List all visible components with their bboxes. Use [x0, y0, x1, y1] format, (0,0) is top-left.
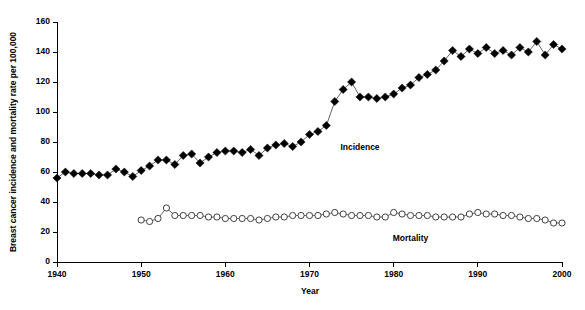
data-point — [221, 147, 229, 155]
x-tick-label: 1960 — [216, 269, 235, 279]
series-annotations: IncidenceMortality — [340, 142, 428, 244]
data-point — [289, 142, 297, 150]
data-point — [230, 147, 238, 155]
x-axis: 1940195019601970198019902000 — [48, 262, 572, 279]
y-tick-label: 80 — [41, 136, 51, 146]
data-point — [70, 169, 78, 177]
x-tick-label: 1940 — [48, 269, 67, 279]
x-tick-label: 2000 — [553, 269, 572, 279]
data-point — [204, 153, 212, 161]
data-point — [137, 166, 145, 174]
data-point — [423, 70, 431, 78]
series-line-incidence — [57, 42, 562, 179]
data-point — [231, 215, 237, 221]
data-point — [95, 171, 103, 179]
data-point — [162, 156, 170, 164]
data-point — [416, 212, 422, 218]
data-point — [500, 212, 506, 218]
y-tick-label: 100 — [36, 106, 50, 116]
data-point — [542, 217, 548, 223]
data-point — [340, 211, 346, 217]
x-tick-label: 1970 — [300, 269, 319, 279]
data-point — [61, 168, 69, 176]
data-point — [348, 212, 354, 218]
data-point — [491, 49, 499, 57]
data-point — [373, 94, 381, 102]
data-point — [103, 171, 111, 179]
data-point — [399, 211, 405, 217]
x-tick-label: 1950 — [132, 269, 151, 279]
data-point — [239, 215, 245, 221]
y-tick-label: 160 — [36, 16, 50, 26]
data-point — [298, 212, 304, 218]
data-point — [264, 215, 270, 221]
y-tick-label: 0 — [45, 256, 50, 266]
data-point — [407, 212, 413, 218]
data-point — [112, 165, 120, 173]
data-point — [189, 212, 195, 218]
data-point — [280, 139, 288, 147]
data-point — [398, 84, 406, 92]
data-point — [53, 174, 61, 182]
y-tick-label: 40 — [41, 196, 51, 206]
x-tick-label: 1980 — [384, 269, 403, 279]
data-point — [214, 214, 220, 220]
data-point — [246, 145, 254, 153]
data-point — [120, 168, 128, 176]
data-point — [365, 212, 371, 218]
series-label-incidence: Incidence — [340, 142, 379, 152]
data-point — [163, 205, 169, 211]
data-point — [356, 93, 364, 101]
y-tick-label: 140 — [36, 46, 50, 56]
data-point — [559, 220, 565, 226]
data-point — [364, 93, 372, 101]
x-tick-label: 1990 — [468, 269, 487, 279]
data-point — [314, 127, 322, 135]
y-tick-label: 20 — [41, 226, 51, 236]
data-point — [238, 148, 246, 156]
data-point — [256, 217, 262, 223]
data-point — [322, 121, 330, 129]
data-point — [374, 214, 380, 220]
data-point — [482, 43, 490, 51]
x-axis-title: Year — [301, 286, 320, 296]
data-point — [272, 141, 280, 149]
data-point — [492, 211, 498, 217]
data-point — [424, 212, 430, 218]
data-point — [180, 212, 186, 218]
data-point — [138, 217, 144, 223]
data-point — [382, 214, 388, 220]
data-point — [87, 169, 95, 177]
data-point — [154, 156, 162, 164]
data-series-group — [53, 37, 566, 226]
data-point — [222, 215, 228, 221]
data-point — [525, 215, 531, 221]
data-point — [357, 212, 363, 218]
data-point — [315, 212, 321, 218]
data-point — [197, 212, 203, 218]
data-point — [129, 172, 137, 180]
data-point — [281, 214, 287, 220]
data-point — [508, 212, 514, 218]
data-point — [78, 169, 86, 177]
chart-plot: 020406080100120140160 194019501960197019… — [0, 0, 585, 310]
data-point — [323, 211, 329, 217]
data-point — [213, 148, 221, 156]
data-point — [247, 215, 253, 221]
data-point — [155, 215, 161, 221]
data-point — [475, 209, 481, 215]
data-point — [474, 49, 482, 57]
data-point — [558, 45, 566, 53]
y-tick-label: 60 — [41, 166, 51, 176]
series-label-mortality: Mortality — [393, 233, 429, 243]
data-point — [205, 214, 211, 220]
chart-container: 020406080100120140160 194019501960197019… — [0, 0, 585, 310]
data-point — [458, 214, 464, 220]
data-point — [146, 218, 152, 224]
data-point — [499, 46, 507, 54]
data-point — [145, 162, 153, 170]
data-point — [441, 214, 447, 220]
data-point — [433, 214, 439, 220]
y-axis-title: Breast cancer incidence and mortality ra… — [8, 32, 18, 252]
data-point — [172, 212, 178, 218]
